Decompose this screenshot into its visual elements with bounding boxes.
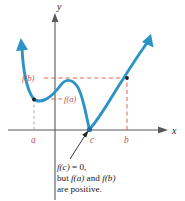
leader-arrowhead xyxy=(82,130,88,137)
tick-label-a: a xyxy=(31,135,36,145)
caption-block: f(c) = 0, but f(a) and f(b) are positive… xyxy=(57,162,115,194)
function-graph: y x xyxy=(0,0,185,201)
caption-and: and xyxy=(84,173,102,183)
caption-leader-arrow xyxy=(70,130,89,159)
fb-value-label: f(b) xyxy=(22,73,35,83)
curve-group xyxy=(15,34,154,130)
caption-fa: f(a) xyxy=(71,173,84,183)
tick-label-b: b xyxy=(124,135,129,145)
caption-eq-zero: = 0, xyxy=(70,162,87,172)
guide-lines-group xyxy=(34,78,127,130)
marked-points-group xyxy=(32,76,129,132)
leader-arrow-line xyxy=(70,134,86,159)
caption-line-2: but f(a) and f(b) xyxy=(57,173,115,183)
x-axis-arrowhead xyxy=(158,127,168,134)
caption-line-3: are positive. xyxy=(57,184,102,194)
function-curve xyxy=(22,43,147,130)
caption-line-1: f(c) = 0, xyxy=(57,162,86,172)
caption-fc: f(c) xyxy=(57,162,70,172)
caption-fb: f(b) xyxy=(102,173,115,183)
point-b-marker xyxy=(125,76,129,80)
tick-label-c: c xyxy=(90,135,95,145)
curve-left-arrowhead xyxy=(15,37,28,51)
point-a-marker xyxy=(32,98,36,102)
y-axis-label: y xyxy=(56,1,62,12)
caption-but: but xyxy=(57,173,71,183)
x-axis-label: x xyxy=(171,125,177,136)
figure-container: y x xyxy=(0,0,185,201)
y-axis-arrowhead xyxy=(52,13,59,22)
fa-value-label: f(a) xyxy=(64,94,77,104)
